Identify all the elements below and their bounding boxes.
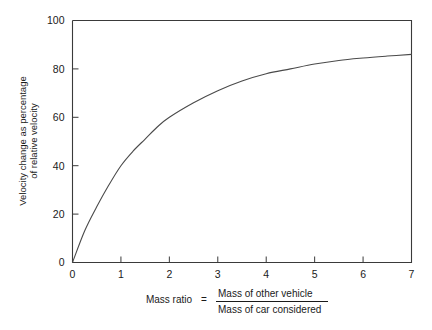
y-tick-label-80: 80: [53, 63, 65, 75]
y-tick-label-60: 60: [53, 111, 65, 123]
y-axis-title-line2: of relative velocity: [28, 103, 39, 179]
velocity-change-line-chart: 01234567 020406080100 Velocity change as…: [0, 0, 432, 330]
x-axis-ticks: [121, 257, 363, 263]
x-tick-label-4: 4: [263, 268, 269, 280]
x-tick-label-7: 7: [409, 268, 415, 280]
x-tick-label-6: 6: [360, 268, 366, 280]
caption-lead-label: Mass ratio: [146, 294, 193, 305]
chart-figure: 01234567 020406080100 Velocity change as…: [0, 0, 432, 330]
x-axis-caption: Mass ratio = Mass of other vehicle Mass …: [146, 288, 328, 315]
caption-numerator: Mass of other vehicle: [218, 288, 313, 299]
caption-equals-sign: =: [201, 294, 207, 305]
velocity-change-curve: [73, 54, 412, 262]
y-tick-label-0: 0: [59, 256, 65, 268]
x-tick-label-3: 3: [215, 268, 221, 280]
x-axis-tick-labels: 01234567: [70, 268, 415, 280]
y-axis-title-line1: Velocity change as percentage: [17, 76, 28, 205]
y-axis-ticks: [73, 69, 79, 214]
y-axis-title: Velocity change as percentage of relativ…: [17, 76, 39, 205]
x-tick-label-2: 2: [166, 268, 172, 280]
caption-denominator: Mass of car considered: [218, 304, 321, 315]
y-tick-label-40: 40: [53, 160, 65, 172]
y-tick-label-100: 100: [47, 14, 65, 26]
x-tick-label-0: 0: [70, 268, 76, 280]
y-tick-label-20: 20: [53, 208, 65, 220]
data-series-group: [73, 54, 412, 262]
x-tick-label-1: 1: [118, 268, 124, 280]
x-tick-label-5: 5: [312, 268, 318, 280]
plot-frame: [73, 21, 412, 263]
y-axis-tick-labels: 020406080100: [47, 14, 65, 268]
